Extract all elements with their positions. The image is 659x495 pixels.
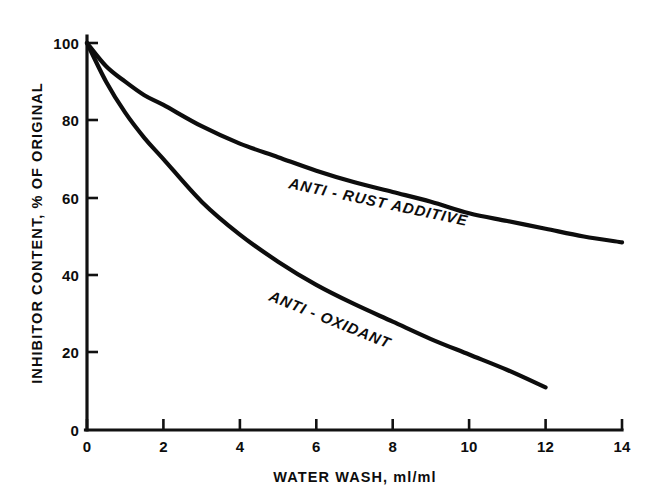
y-tick-label-60: 60: [62, 190, 79, 207]
x-tick-label-8: 8: [388, 438, 397, 455]
y-axis-title: INHIBITOR CONTENT, % OF ORIGINAL: [29, 82, 45, 384]
x-axis-ticks: [87, 419, 622, 430]
x-tick-label-12: 12: [537, 438, 554, 455]
x-axis-title: WATER WASH, ml/ml: [273, 469, 436, 485]
x-tick-label-2: 2: [159, 438, 168, 455]
x-tick-label-0: 0: [83, 438, 92, 455]
chart-plot-area: 100 80 60 40 20 0 0 2 4 6 8 10 12 14 WAT…: [0, 0, 659, 495]
x-tick-label-4: 4: [236, 438, 245, 455]
y-tick-label-40: 40: [62, 267, 79, 284]
chart-figure: 100 80 60 40 20 0 0 2 4 6 8 10 12 14 WAT…: [0, 0, 659, 495]
x-tick-label-14: 14: [613, 438, 631, 455]
y-tick-label-0: 0: [70, 422, 79, 439]
x-tick-label-6: 6: [312, 438, 321, 455]
y-tick-label-100: 100: [53, 35, 79, 52]
x-tick-label-10: 10: [461, 438, 478, 455]
series-label-anti-rust: ANTI - RUST ADDITIVE: [286, 174, 469, 229]
series-line-anti-rust: [87, 43, 622, 242]
y-tick-label-20: 20: [62, 344, 79, 361]
y-tick-label-80: 80: [62, 112, 79, 129]
y-axis-ticks: [87, 43, 98, 352]
series-label-anti-oxidant: ANTI - OXIDANT: [266, 287, 394, 352]
